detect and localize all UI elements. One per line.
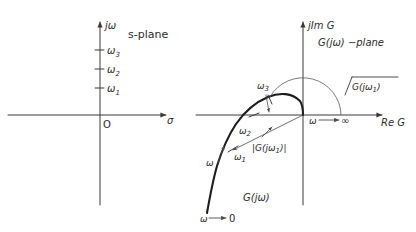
g-plane-title: G(jω) −plane bbox=[318, 37, 384, 48]
omega-infinity-value: ∞ bbox=[341, 115, 349, 126]
g-plane-panel: jIm G Re G G(jω) −plane ω1 ω2 ω3 bbox=[196, 20, 405, 224]
g-plane-jim-label: jIm G bbox=[306, 20, 335, 31]
s-plane-origin-label: O bbox=[103, 119, 111, 130]
s-plane-jomega-label: jω bbox=[103, 20, 116, 31]
angle-symbol-slash bbox=[345, 77, 352, 95]
g-plane-curve-label: G(jω) bbox=[243, 192, 270, 203]
s-plane-title: s-plane bbox=[128, 28, 168, 41]
s-plane-label-omega2: ω2 bbox=[107, 64, 120, 78]
g-plane-label-omega1: ω1 bbox=[234, 152, 246, 164]
s-plane-label-omega1: ω1 bbox=[107, 83, 120, 97]
magnitude-label-leader bbox=[262, 127, 272, 137]
g-plane-label-omega3: ω3 bbox=[257, 81, 269, 93]
nyquist-figure-svg: ω1 ω2 ω3 jω σ O s-plane bbox=[0, 0, 416, 232]
g-plane-label-omega2: ω2 bbox=[239, 126, 252, 138]
s-plane-label-omega3: ω3 bbox=[107, 45, 120, 59]
omega-infinity-omega: ω bbox=[309, 116, 317, 126]
omega-direction-arrow bbox=[218, 146, 224, 163]
angle-label: G(jω1) bbox=[352, 82, 381, 94]
omega-zero-value: 0 bbox=[229, 213, 235, 224]
omega-direction-label: ω bbox=[206, 158, 214, 168]
s-plane-panel: ω1 ω2 ω3 jω σ O s-plane bbox=[8, 20, 174, 205]
s-plane-sigma-label: σ bbox=[167, 115, 174, 126]
magnitude-label: |G(jω1)| bbox=[252, 143, 287, 155]
figure-canvas: ω1 ω2 ω3 jω σ O s-plane bbox=[0, 0, 416, 232]
g-plane-reg-label: Re G bbox=[381, 117, 405, 128]
omega-zero-omega: ω bbox=[200, 214, 208, 224]
angle-arc bbox=[270, 78, 341, 115]
